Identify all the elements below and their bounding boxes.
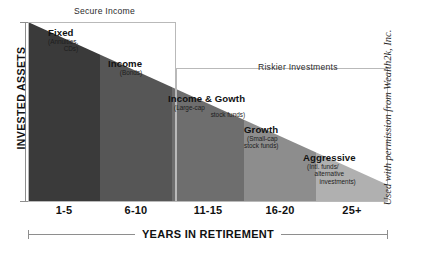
- segment-label-income-and-gowth: Income & Gowth (Large-cap stock funds): [168, 93, 245, 119]
- segment-subtitle-line: stock funds): [244, 142, 278, 149]
- segment-subtitle-line: (Intl. funds/: [303, 163, 356, 170]
- x-axis: YEARS IN RETIREMENT: [28, 224, 388, 244]
- segment-subtitle: (Large-cap stock funds): [168, 104, 245, 119]
- segment-subtitle-line: alternative: [303, 170, 356, 177]
- segment-subtitle-line: (Bonds): [108, 69, 142, 76]
- segment-subtitle: (Intl. funds/ alternative investments): [303, 163, 356, 185]
- segment-title: Aggressive: [303, 152, 356, 163]
- segment-label-aggressive: Aggressive (Intl. funds/ alternative inv…: [303, 152, 356, 185]
- segment-subtitle-line: (Small-cap: [244, 135, 278, 142]
- segment-title: Growth: [244, 124, 278, 135]
- annotation-secure-income: Secure Income: [74, 6, 135, 16]
- x-axis-tick-labels: 1-5 6-10 11-15 16-20 25+: [28, 204, 388, 220]
- credit-attribution: Used with permission from Wealth2k, Inc.: [382, 25, 393, 211]
- x-axis-title: YEARS IN RETIREMENT: [142, 228, 274, 240]
- segment-subtitle-line: CDs): [48, 45, 78, 52]
- x-tick-4: 25+: [316, 204, 388, 220]
- annotation-riskier-investments: Riskier Investments: [258, 62, 338, 72]
- segment-subtitle-line: investments): [303, 178, 356, 185]
- segment-title: Income: [108, 58, 142, 69]
- segment-subtitle-line: (Annuities,: [48, 38, 78, 45]
- x-tick-0: 1-5: [28, 204, 100, 220]
- segment-label-growth: Growth (Small-cap stock funds): [244, 124, 278, 150]
- segment-title: Fixed: [48, 27, 78, 38]
- band-1: [100, 22, 172, 202]
- x-tick-2: 11-15: [172, 204, 244, 220]
- x-tick-1: 6-10: [100, 204, 172, 220]
- x-axis-rule-right: [281, 234, 388, 235]
- x-axis-rule-left: [28, 234, 135, 235]
- segment-subtitle-line: stock funds): [168, 111, 245, 118]
- segment-subtitle: (Annuities, CDs): [48, 38, 78, 53]
- segment-subtitle-line: (Large-cap: [168, 104, 245, 111]
- segment-subtitle: (Bonds): [108, 69, 142, 76]
- y-axis-title: INVESTED ASSETS: [15, 13, 27, 183]
- chart-figure: INVESTED ASSETS Secure Income Riskier In…: [0, 0, 421, 253]
- segment-label-income: Income (Bonds): [108, 58, 142, 76]
- segment-label-fixed: Fixed (Annuities, CDs): [48, 27, 78, 53]
- segment-subtitle: (Small-cap stock funds): [244, 135, 278, 150]
- segment-title: Income & Gowth: [168, 93, 245, 104]
- x-tick-3: 16-20: [244, 204, 316, 220]
